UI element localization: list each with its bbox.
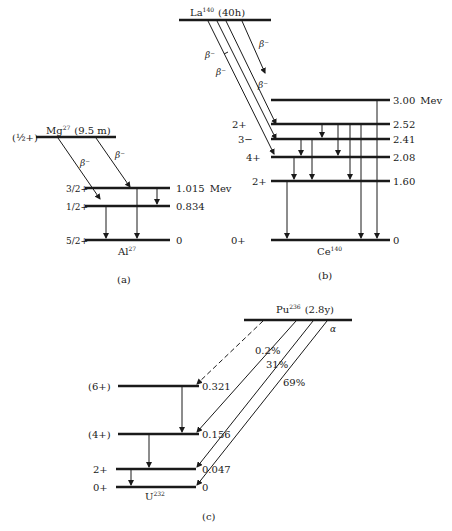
beta-label-2: β⁻ <box>215 67 226 77</box>
panel-b-la140-decay: La140(40h) β⁻ β⁻ β⁻ β⁻ 2+ 3− 4+ 2+ <box>179 6 442 281</box>
spin-1-2: 1/2+ <box>66 202 88 212</box>
branch-69-percent: 69% <box>283 377 305 388</box>
ce140-label: Ce140 <box>317 245 342 257</box>
beta-label-3: β⁻ <box>258 39 269 49</box>
spin-4plus: 4+ <box>246 152 261 163</box>
mg27-parent-label: Mg27(9.5 m) <box>46 124 111 136</box>
spin-0plus: 0+ <box>231 235 246 246</box>
energy-0: 0 <box>176 235 182 246</box>
energy-0834: 0.834 <box>176 201 205 212</box>
energy-208: 2.08 <box>393 152 415 163</box>
beta-label-leader <box>224 52 228 54</box>
beta-label-1: β⁻ <box>79 158 90 168</box>
beta-label-4: β⁻ <box>257 80 268 90</box>
energy-252: 2.52 <box>393 119 415 130</box>
al27-label: Al27 <box>117 245 136 257</box>
spin-0plus: 0+ <box>93 482 108 493</box>
spin-2plus-252: 2+ <box>232 119 247 130</box>
spin-3-2: 3/2+ <box>66 184 88 194</box>
pu236-parent-label: Pu236(2.8y) <box>276 303 334 315</box>
beta-arrow-to-1015 <box>96 138 130 187</box>
energy-0156: 0.156 <box>202 429 231 440</box>
spin-5-2: 5/2+ <box>66 236 88 246</box>
caption-c: (c) <box>202 511 216 522</box>
mg27-parent-spin: (½+) <box>12 132 38 143</box>
alpha-arrow-to-0156 <box>197 321 296 432</box>
beta-label-2: β⁻ <box>114 150 125 160</box>
beta-label-1: β⁻ <box>204 50 215 60</box>
panel-a-mg27-decay: (½+) Mg27(9.5 m) β⁻ β⁻ 3/2+ 1/2+ 5/2+ 1.… <box>12 124 232 285</box>
branch-0-2-percent: 0.2% <box>255 345 280 356</box>
la140-parent-label: La140(40h) <box>190 6 245 18</box>
spin-2plus-160: 2+ <box>252 176 267 187</box>
energy-160: 1.60 <box>393 176 415 187</box>
energy-0047: 0.047 <box>202 464 231 475</box>
spin-2plus: 2+ <box>93 464 108 475</box>
spin-4plus: (4+) <box>88 429 111 440</box>
caption-b: (b) <box>318 270 332 281</box>
energy-0: 0 <box>393 235 399 246</box>
spin-3minus: 3− <box>238 134 253 145</box>
alpha-arrow-to-0321 <box>197 321 263 384</box>
caption-a: (a) <box>117 274 131 285</box>
alpha-label: α <box>330 324 336 334</box>
decay-schemes-figure: (½+) Mg27(9.5 m) β⁻ β⁻ 3/2+ 1/2+ 5/2+ 1.… <box>0 0 452 531</box>
panel-c-pu236-decay: Pu236(2.8y) α 0.2% 31% 69% (6+) (4+) 2+ … <box>88 303 352 522</box>
branch-31-percent: 31% <box>266 359 288 370</box>
spin-6plus: (6+) <box>88 381 111 392</box>
energy-300: 3.00Mev <box>393 95 442 106</box>
alpha-arrow-to-0047 <box>197 321 313 467</box>
energy-1015: 1.015Mev <box>176 183 232 194</box>
energy-0321: 0.321 <box>202 381 231 392</box>
u232-label: U232 <box>145 490 165 502</box>
energy-0: 0 <box>202 482 208 493</box>
energy-241: 2.41 <box>393 134 415 145</box>
